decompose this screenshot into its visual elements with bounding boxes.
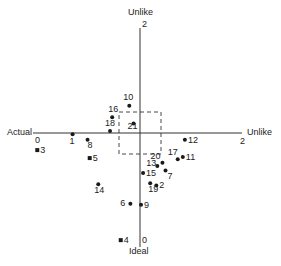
point-label-17: 17 [168,148,178,157]
plot-canvas [0,0,281,266]
point-marker-4 [119,238,123,242]
right-axis-value: 2 [240,137,245,146]
point-label-2: 2 [159,181,164,190]
point-marker-5 [88,156,92,160]
point-label-15: 15 [146,169,156,178]
point-label-5: 5 [93,154,98,163]
point-label-9: 9 [144,201,149,210]
point-label-21: 21 [128,122,138,131]
point-label-11: 11 [186,153,195,162]
point-label-10: 10 [123,93,133,102]
top-axis-value: 2 [142,20,147,29]
bottom-axis-value: 0 [142,236,147,245]
point-label-3: 3 [40,146,45,155]
point-marker-20 [160,161,164,165]
left-axis-label: Actual [7,128,32,137]
point-marker-10 [127,104,131,108]
point-label-16: 16 [108,105,118,114]
left-axis-value: 0 [35,136,40,145]
point-label-4: 4 [124,236,129,245]
point-marker-3 [35,148,39,152]
right-axis-label: Unlike [247,128,272,137]
point-marker-17 [176,157,180,161]
point-label-7: 7 [168,172,173,181]
point-marker-11 [181,155,185,159]
point-label-6: 6 [120,199,125,208]
top-axis-label: Unlike [128,8,153,17]
point-label-19: 19 [148,185,158,194]
point-marker-9 [139,203,143,207]
point-label-18: 18 [105,119,115,128]
point-marker-12 [183,138,187,142]
point-label-1: 1 [70,137,75,146]
point-label-20: 20 [150,152,160,161]
point-label-14: 14 [94,186,104,195]
point-marker-18 [108,129,112,133]
point-marker-15 [141,171,145,175]
point-marker-6 [128,202,132,206]
bottom-axis-label: Ideal [129,247,149,256]
point-label-12: 12 [188,136,198,145]
scatter-diagram: Unlike 2 Actual 0 Unlike 2 0 Ideal 12345… [0,0,281,266]
point-label-8: 8 [88,141,93,150]
